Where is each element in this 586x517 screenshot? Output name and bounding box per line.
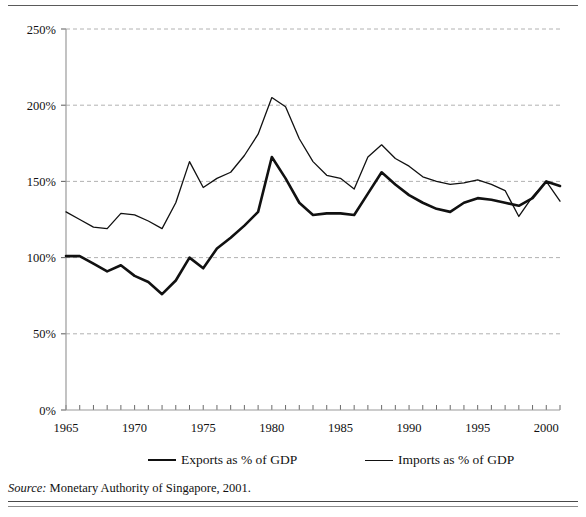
chart-area: 0%50%100%150%200%250% 196519701975198019… <box>0 0 586 440</box>
x-axis-tick-labels: 19651970197519801985199019952000 <box>54 421 559 435</box>
legend-entry-exports: Exports as % of GDP <box>148 452 297 468</box>
svg-text:1965: 1965 <box>54 421 79 435</box>
y-axis-tick-labels: 0%50%100%150%200%250% <box>27 23 56 418</box>
legend-line-exports-icon <box>148 459 176 461</box>
legend-label-exports: Exports as % of GDP <box>181 452 297 468</box>
svg-text:1980: 1980 <box>259 421 284 435</box>
svg-text:50%: 50% <box>33 327 56 341</box>
svg-text:0%: 0% <box>39 404 56 418</box>
svg-text:100%: 100% <box>27 251 56 265</box>
x-axis-tick-marks <box>66 405 560 410</box>
source-label: Source: <box>8 481 46 495</box>
line-chart: 0%50%100%150%200%250% 196519701975198019… <box>0 0 586 440</box>
svg-text:1990: 1990 <box>397 421 422 435</box>
legend-line-imports-icon <box>365 460 393 461</box>
figure-page: 0%50%100%150%200%250% 196519701975198019… <box>0 0 586 517</box>
source-note: Source: Monetary Authority of Singapore,… <box>8 481 251 496</box>
svg-text:1970: 1970 <box>122 421 147 435</box>
svg-text:1985: 1985 <box>328 421 353 435</box>
exports-line <box>66 157 560 294</box>
chart-legend: Exports as % of GDP Imports as % of GDP <box>0 452 586 478</box>
svg-text:150%: 150% <box>27 175 56 189</box>
gridlines <box>66 29 560 334</box>
svg-text:1975: 1975 <box>191 421 216 435</box>
legend-label-imports: Imports as % of GDP <box>398 452 514 468</box>
bottom-rule-secondary <box>8 506 578 507</box>
source-text: Monetary Authority of Singapore, 2001. <box>50 481 251 495</box>
svg-text:250%: 250% <box>27 23 56 37</box>
svg-text:2000: 2000 <box>534 421 559 435</box>
legend-entry-imports: Imports as % of GDP <box>365 452 514 468</box>
y-axis-tick-marks <box>61 29 66 410</box>
svg-text:1995: 1995 <box>465 421 490 435</box>
bottom-rule-primary <box>8 501 578 502</box>
svg-text:200%: 200% <box>27 99 56 113</box>
imports-line <box>66 98 560 229</box>
